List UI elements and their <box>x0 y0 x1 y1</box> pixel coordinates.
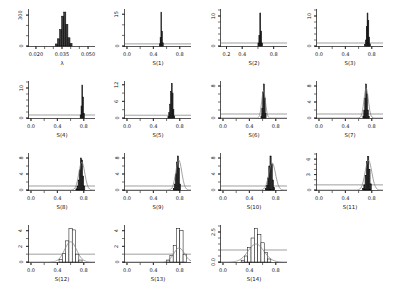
svg-text:0.4: 0.4 <box>53 123 61 129</box>
svg-text:S(6): S(6) <box>248 132 259 138</box>
histogram-bars-s8 <box>76 158 85 190</box>
svg-text:0.4: 0.4 <box>149 267 157 273</box>
panel-svg-s1: 0.00.40.8015S(1) <box>99 5 195 77</box>
panel-s1: 0.00.40.8015S(1) <box>99 5 195 77</box>
density-curve-s12 <box>29 242 95 262</box>
svg-text:0.035: 0.035 <box>55 51 69 57</box>
svg-text:0: 0 <box>306 44 312 47</box>
svg-text:8: 8 <box>210 156 216 159</box>
x-axis-ticks-s14: 0.00.40.8 <box>219 263 280 273</box>
bar <box>69 228 72 262</box>
panel-s14: 0.00.40.80.02.5S(14) <box>195 221 291 293</box>
histogram-bars-s13 <box>167 228 187 262</box>
x-axis-ticks-s9: 0.00.40.8 <box>123 191 184 201</box>
svg-text:0.8: 0.8 <box>176 195 184 201</box>
panel-svg-s13: 0.00.40.8024S(13) <box>99 221 195 293</box>
svg-text:0.020: 0.020 <box>29 51 43 57</box>
svg-text:0.0: 0.0 <box>27 267 35 273</box>
bar <box>241 260 244 262</box>
bar <box>70 43 72 46</box>
svg-text:0.0: 0.0 <box>219 195 227 201</box>
y-axis-ticks-s14: 0.02.5 <box>210 226 221 266</box>
svg-text:0.4: 0.4 <box>53 267 61 273</box>
x-label-s7: S(7) <box>344 132 355 138</box>
svg-text:10: 10 <box>210 13 216 19</box>
bar <box>258 234 261 262</box>
bar <box>60 30 62 46</box>
panel-lambda: 0.0200.0350.0500300λ <box>3 5 99 77</box>
svg-text:0.0: 0.0 <box>123 51 131 57</box>
svg-text:0: 0 <box>18 116 24 119</box>
svg-text:4: 4 <box>306 100 312 103</box>
svg-text:0.4: 0.4 <box>341 195 349 201</box>
axes-s10 <box>219 153 288 191</box>
panel-s7: 0.00.40.8048S(7) <box>291 77 387 149</box>
bar <box>180 184 181 190</box>
panel-svg-s3: 0.00.40.8010S(3) <box>291 5 387 77</box>
bar <box>62 16 64 46</box>
svg-text:0.8: 0.8 <box>80 123 88 129</box>
panel-s5: 0.00.40.80612S(5) <box>99 77 195 149</box>
svg-text:8: 8 <box>114 156 120 159</box>
svg-text:S(3): S(3) <box>344 60 355 66</box>
y-axis-ticks-s10: 048 <box>210 156 221 191</box>
svg-text:0.0: 0.0 <box>315 123 323 129</box>
svg-text:4: 4 <box>114 229 120 232</box>
x-axis-ticks-s12: 0.00.40.8 <box>27 263 88 273</box>
x-label-s9: S(9) <box>152 204 163 210</box>
bar <box>370 184 371 190</box>
svg-text:0.8: 0.8 <box>368 123 376 129</box>
bar <box>55 44 57 46</box>
svg-text:0.0: 0.0 <box>123 195 131 201</box>
svg-text:S(1): S(1) <box>152 60 163 66</box>
bar <box>251 238 254 262</box>
histogram-bars-s11 <box>363 157 372 190</box>
panel-svg-s6: 0.00.40.808S(6) <box>195 77 291 149</box>
svg-text:300: 300 <box>18 10 24 20</box>
x-axis-ticks-s1: 0.00.40.8 <box>123 47 184 57</box>
density-curve-s7 <box>317 88 383 118</box>
histogram-bars-lambda <box>55 12 72 46</box>
figure: 0.0200.0350.0500300λ0.00.40.8015S(1)0.20… <box>0 0 395 299</box>
y-axis-ticks-s13: 024 <box>114 229 125 263</box>
panel-s12: 0.00.40.8024S(12) <box>3 221 99 293</box>
axes-s6 <box>219 81 288 119</box>
y-axis-ticks-s11: 036 <box>306 154 317 192</box>
x-label-s8: S(8) <box>56 204 67 210</box>
bar <box>174 116 175 118</box>
bar <box>254 228 257 262</box>
svg-text:0.4: 0.4 <box>341 123 349 129</box>
svg-text:8: 8 <box>18 156 24 159</box>
x-axis-ticks-s10: 0.00.40.8 <box>219 191 280 201</box>
y-axis-ticks-s9: 048 <box>114 156 125 191</box>
bar <box>162 43 163 46</box>
panel-svg-s11: 0.00.40.8036S(11) <box>291 149 387 221</box>
bar <box>84 186 85 190</box>
x-label-s14: S(14) <box>247 276 262 282</box>
bar <box>62 253 65 262</box>
histogram-bars-s12 <box>59 228 82 262</box>
svg-text:10: 10 <box>18 85 24 91</box>
x-label-s5: S(5) <box>152 132 163 138</box>
svg-text:0: 0 <box>114 188 120 191</box>
svg-text:0.8: 0.8 <box>176 267 184 273</box>
x-axis-ticks-lambda: 0.0200.0350.050 <box>29 47 95 57</box>
panel-s13: 0.00.40.8024S(13) <box>99 221 195 293</box>
svg-text:0.8: 0.8 <box>80 267 88 273</box>
x-axis-ticks-s8: 0.00.40.8 <box>27 191 88 201</box>
x-axis-ticks-s7: 0.00.40.8 <box>315 119 376 129</box>
y-axis-ticks-s7: 048 <box>306 84 317 119</box>
svg-text:0.8: 0.8 <box>272 267 280 273</box>
svg-text:0.8: 0.8 <box>272 195 280 201</box>
panel-svg-s2: 0.20.40.8010S(2) <box>195 5 291 77</box>
histogram-bars-s2 <box>258 13 263 46</box>
svg-text:0.2: 0.2 <box>223 51 231 57</box>
svg-text:0.8: 0.8 <box>270 51 278 57</box>
y-axis-ticks-s8: 048 <box>18 156 29 191</box>
svg-text:12: 12 <box>114 82 120 88</box>
y-axis-ticks-s1: 015 <box>114 11 125 48</box>
x-label-s10: S(10) <box>247 204 262 210</box>
bar <box>79 260 82 262</box>
axes-s7 <box>315 81 384 119</box>
svg-text:0.0: 0.0 <box>315 51 323 57</box>
